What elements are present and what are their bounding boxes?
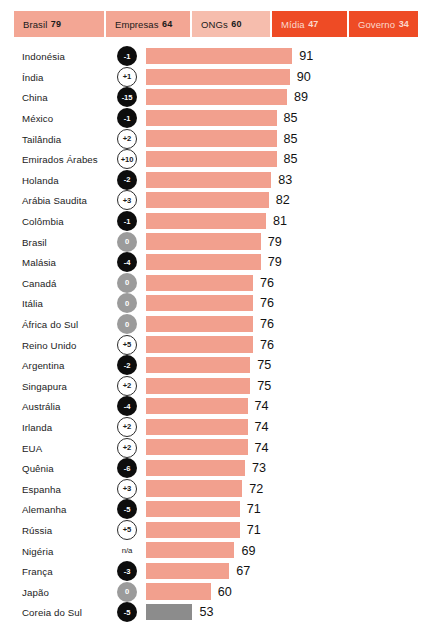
bar-row: Quênia-673	[0, 458, 429, 479]
country-label: Coreia do Sul	[22, 607, 82, 618]
bar	[146, 130, 277, 146]
delta-badge: -6	[117, 458, 137, 478]
country-label: Holanda	[22, 174, 59, 185]
delta-badge: -4	[117, 252, 137, 272]
bar-value: 83	[278, 173, 292, 187]
tab-m-dia[interactable]: Mídia47	[272, 11, 347, 37]
delta-badge: -1	[117, 211, 137, 231]
delta-badge: +5	[117, 335, 137, 355]
bar-value: 91	[299, 49, 313, 63]
delta-badge: +5	[117, 520, 137, 540]
country-label: África do Sul	[22, 319, 78, 330]
tab-label: Mídia	[281, 19, 305, 30]
bar	[146, 357, 250, 373]
bar-value: 82	[276, 193, 290, 207]
country-label: EUA	[22, 442, 42, 453]
bar-value: 76	[260, 317, 274, 331]
country-label: Canadá	[22, 277, 57, 288]
tab-label: Brasil	[23, 19, 47, 30]
country-label: Reino Unido	[22, 339, 76, 350]
bar-row: África do Sul076	[0, 314, 429, 335]
bar-row: Reino Unido+576	[0, 334, 429, 355]
bar-row: Índia+190	[0, 67, 429, 88]
country-label: Itália	[22, 298, 43, 309]
tab-governo[interactable]: Governo34	[349, 11, 418, 37]
bar	[146, 110, 277, 126]
bar	[146, 439, 248, 455]
bar-value: 60	[218, 585, 232, 599]
bar	[146, 522, 240, 538]
delta-badge: -5	[117, 499, 137, 519]
delta-badge: +10	[117, 149, 137, 169]
bar	[146, 316, 253, 332]
horizontal-bar-chart: Indonésia-191Índia+190China-1589México-1…	[0, 46, 429, 623]
bar-value: 89	[294, 90, 308, 104]
country-label: Arábia Saudita	[22, 195, 87, 206]
delta-badge: n/a	[117, 541, 137, 561]
delta-badge: +2	[117, 376, 137, 396]
tab-label: Empresas	[115, 19, 159, 30]
bar-value: 76	[260, 276, 274, 290]
country-label: Tailândia	[22, 133, 61, 144]
country-label: Brasil	[22, 236, 47, 247]
delta-badge: -3	[117, 561, 137, 581]
bar-row: Singapura+275	[0, 376, 429, 397]
country-label: Malásia	[22, 257, 56, 268]
category-tab-strip: Brasil79Empresas64ONGs60Mídia47Governo34	[14, 11, 418, 37]
bar	[146, 460, 245, 476]
bar	[146, 89, 287, 105]
country-label: França	[22, 566, 53, 577]
bar-value: 53	[199, 605, 213, 619]
country-label: Austrália	[22, 401, 61, 412]
delta-badge: +2	[117, 417, 137, 437]
bar	[146, 48, 292, 64]
bar-value: 85	[284, 111, 298, 125]
tab-brasil[interactable]: Brasil79	[14, 11, 104, 37]
country-label: Rússia	[22, 524, 52, 535]
bar-value: 79	[268, 255, 282, 269]
tab-value: 79	[51, 19, 61, 29]
tab-value: 34	[399, 19, 409, 29]
bar-row: Itália076	[0, 293, 429, 314]
bar-row: Alemanha-571	[0, 499, 429, 520]
bar-value: 79	[268, 235, 282, 249]
tab-label: ONGs	[201, 19, 228, 30]
country-label: Japão	[22, 586, 49, 597]
bar-row: Rússia+571	[0, 520, 429, 541]
bar-row: Emirados Árabes+1085	[0, 149, 429, 170]
bar-row: México-185	[0, 108, 429, 129]
delta-badge: 0	[117, 293, 137, 313]
bar	[146, 295, 253, 311]
bar-value: 76	[260, 296, 274, 310]
country-label: Índia	[22, 71, 44, 82]
bar-row: Canadá076	[0, 273, 429, 294]
country-label: Emirados Árabes	[22, 154, 98, 165]
tab-value: 60	[231, 19, 241, 29]
bar-row: Coreia do Sul-553	[0, 602, 429, 623]
bar	[146, 419, 248, 435]
country-label: México	[22, 113, 53, 124]
bar	[146, 192, 269, 208]
bar-value: 71	[247, 523, 261, 537]
tab-empresas[interactable]: Empresas64	[106, 11, 190, 37]
bar-row: Colômbia-181	[0, 211, 429, 232]
country-label: Alemanha	[22, 504, 66, 515]
bar-value: 76	[260, 338, 274, 352]
bar-value: 74	[255, 399, 269, 413]
bar	[146, 501, 240, 517]
bar	[146, 69, 290, 85]
tab-ongs[interactable]: ONGs60	[192, 11, 270, 37]
delta-badge: -15	[117, 87, 137, 107]
bar	[146, 254, 261, 270]
bar	[146, 213, 266, 229]
bar-row: Tailândia+285	[0, 128, 429, 149]
delta-badge: -4	[117, 396, 137, 416]
delta-badge: -2	[117, 170, 137, 190]
bar	[146, 583, 211, 599]
bar	[146, 542, 234, 558]
bar-value: 74	[255, 441, 269, 455]
delta-badge: -5	[117, 602, 137, 622]
delta-badge: +1	[117, 67, 137, 87]
delta-badge: 0	[117, 232, 137, 252]
tab-label: Governo	[358, 19, 395, 30]
